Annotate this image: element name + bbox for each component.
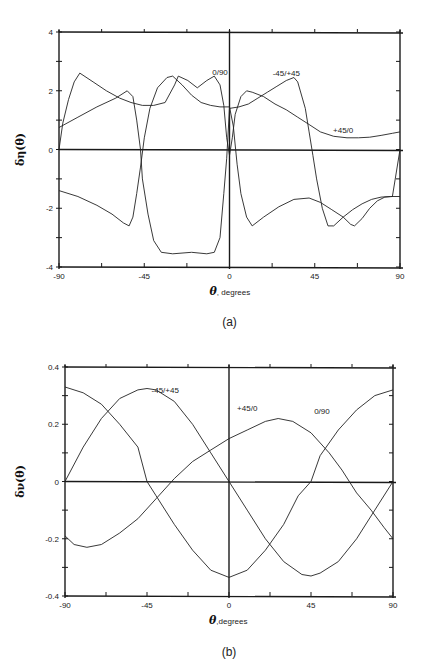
y-tick-label: -0.2	[45, 535, 59, 544]
series-label: 0/90	[212, 68, 228, 77]
top-axis-line	[65, 367, 396, 368]
y-tick-label: -0.4	[45, 592, 59, 601]
top-axis-line	[59, 32, 403, 33]
y-tick-label: 0.2	[48, 420, 60, 429]
series-label: -45/+45	[152, 386, 180, 395]
x-axis-label: θ,degrees	[209, 614, 247, 627]
y-zero-line	[65, 482, 396, 483]
y-tick-label: 0	[55, 478, 60, 487]
x-tick-label: 45	[307, 601, 316, 610]
series-label: +45/0	[333, 126, 354, 135]
series-label: -45/+45	[273, 69, 301, 78]
axes: -90-4504590-0.4-0.200.20.4	[45, 363, 398, 610]
x-tick-label: 90	[396, 272, 405, 281]
x-tick-label: -45	[141, 601, 153, 610]
y-axis-label: δν(θ)	[14, 465, 27, 498]
x-tick-label: -90	[59, 601, 71, 610]
x-axis-unit: , degrees	[217, 288, 250, 297]
bottom-axis-line	[59, 267, 403, 268]
y-tick-label: 2	[49, 87, 54, 96]
y-tick-label: -2	[46, 204, 54, 213]
x-axis-unit: ,degrees	[216, 617, 247, 626]
x-tick-label: 45	[310, 272, 319, 281]
axes: -90-4504590-4-2024	[46, 28, 405, 281]
x-tick-label: 90	[389, 601, 398, 610]
y-tick-label: 0.4	[48, 363, 60, 372]
x-tick-label: -90	[53, 272, 65, 281]
x-tick-label: 0	[227, 601, 232, 610]
x-tick-label: -45	[138, 272, 150, 281]
y-tick-label: -4	[46, 263, 54, 272]
panel-caption: (a)	[222, 315, 237, 329]
y-zero-line	[59, 150, 403, 151]
y-tick-label: 4	[49, 28, 54, 37]
x-tick-label: 0	[227, 272, 232, 281]
y-axis-label: δη(θ)	[14, 133, 27, 166]
x-axis-label: θ, degrees	[210, 285, 251, 298]
bottom-axis-line	[65, 596, 396, 597]
chart-panel-b: -90-4504590-0.4-0.200.20.4θ,degreesδν(θ)…	[14, 363, 398, 659]
figure: -90-4504590-4-2024θ, degreesδη(θ)0/90-45…	[0, 0, 423, 672]
y-tick-label: 0	[49, 146, 54, 155]
panel-caption: (b)	[222, 645, 237, 659]
chart-panel-a: -90-4504590-4-2024θ, degreesδη(θ)0/90-45…	[14, 28, 405, 329]
series-label: +45/0	[237, 404, 258, 413]
series-label: 0/90	[314, 407, 330, 416]
